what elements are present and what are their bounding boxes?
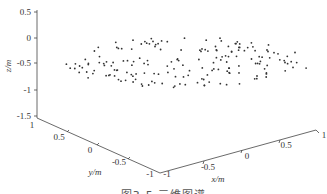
svg-text:0.5: 0.5 <box>280 140 292 150</box>
svg-text:0: 0 <box>245 151 250 161</box>
z-axis-label: z/m <box>3 59 13 73</box>
svg-text:0.5: 0.5 <box>20 7 32 17</box>
svg-text:-0.5: -0.5 <box>17 58 32 68</box>
x-ticks: -1 -0.5 0 0.5 1 <box>163 130 326 179</box>
x-axis-end-tick <box>316 130 319 133</box>
z-ticks: 0.5 0 -0.5 -1 -1.5 <box>17 7 37 121</box>
y-axis <box>37 118 160 173</box>
svg-text:1: 1 <box>30 120 35 130</box>
svg-text:-1: -1 <box>163 169 171 179</box>
svg-text:-0.5: -0.5 <box>201 162 216 172</box>
svg-text:0: 0 <box>27 33 32 43</box>
x-axis-label: x/m <box>211 174 225 184</box>
svg-text:-1: -1 <box>24 85 32 95</box>
svg-text:0: 0 <box>88 145 93 155</box>
x-axis <box>160 130 316 173</box>
scatter-points <box>66 37 308 88</box>
svg-text:0.5: 0.5 <box>53 132 65 142</box>
figure-caption: 图3-5 三维图谱 <box>0 186 327 194</box>
svg-text:1: 1 <box>322 130 327 140</box>
y-axis-label: y/m <box>88 167 102 177</box>
scatter-3d-plot: 0.5 0 -0.5 -1 -1.5 z/m 1 0.5 0 -0.5 -1 y… <box>0 0 327 194</box>
svg-text:-0.5: -0.5 <box>112 157 127 167</box>
svg-text:-1: -1 <box>146 169 154 179</box>
